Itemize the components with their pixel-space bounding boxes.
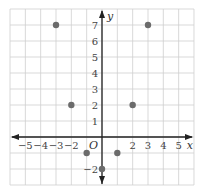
data-point	[145, 22, 151, 28]
coordinate-plane: −5−4−3−223457654321−2 x y O	[0, 0, 199, 193]
y-tick-label: 6	[92, 36, 98, 47]
y-tick-label: 1	[92, 116, 98, 127]
x-tick-label: 2	[129, 140, 135, 151]
tick-labels: −5−4−3−223457654321−2	[18, 20, 182, 175]
x-tick-label: 4	[160, 140, 166, 151]
y-tick-label: 5	[92, 52, 98, 63]
y-tick-label: 3	[92, 84, 98, 95]
y-axis-label: y	[106, 10, 114, 23]
x-tick-label: −2	[64, 140, 79, 151]
y-tick-label: 7	[92, 20, 98, 31]
y-tick-label: 4	[92, 68, 98, 79]
x-axis-label: x	[187, 139, 194, 152]
data-point	[68, 102, 74, 108]
arrow-down-icon	[99, 176, 105, 184]
y-tick-label: 2	[92, 100, 98, 111]
x-tick-label: −4	[33, 140, 48, 151]
x-tick-label: 3	[145, 140, 151, 151]
arrow-up-icon	[99, 10, 105, 18]
data-point	[99, 166, 105, 172]
data-point	[129, 102, 135, 108]
origin-label: O	[89, 139, 98, 152]
x-tick-label: −3	[49, 140, 64, 151]
y-tick-label: −2	[83, 164, 98, 175]
data-point	[53, 22, 59, 28]
x-tick-label: 5	[175, 140, 181, 151]
axes	[11, 10, 193, 184]
data-point	[114, 150, 120, 156]
x-tick-label: −5	[18, 140, 33, 151]
